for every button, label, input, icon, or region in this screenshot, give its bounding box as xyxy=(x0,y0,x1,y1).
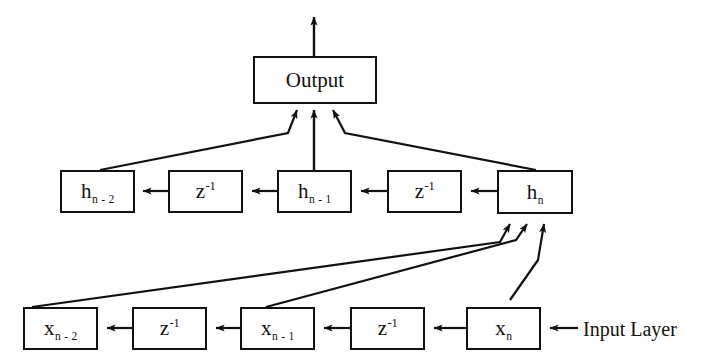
node-x-n-label: xn xyxy=(495,318,512,339)
node-x-n-1[interactable]: xn - 1 xyxy=(240,307,315,350)
node-input-delay-1-label: z-1 xyxy=(160,318,180,339)
edge-x-n-to-h-n xyxy=(510,224,544,300)
node-h-n-label: hn xyxy=(527,182,544,203)
edge-x-n-1-to-h-n xyxy=(266,224,527,307)
edge-x-n-2-to-h-n xyxy=(32,224,510,307)
input-layer-label: Input Layer xyxy=(583,318,677,341)
node-hidden-delay-2-label: z-1 xyxy=(415,181,435,202)
node-h-n-1[interactable]: hn - 1 xyxy=(277,170,352,213)
node-hidden-delay-1[interactable]: z-1 xyxy=(168,170,243,213)
node-x-n[interactable]: xn xyxy=(466,307,541,350)
node-hidden-delay-1-label: z-1 xyxy=(196,181,216,202)
node-x-n-1-label: xn - 1 xyxy=(261,318,294,339)
node-h-n-2-label: hn - 2 xyxy=(81,181,114,202)
node-output-label: Output xyxy=(286,70,344,91)
node-input-delay-2[interactable]: z-1 xyxy=(350,307,425,350)
node-h-n[interactable]: hn xyxy=(497,170,573,214)
node-h-n-2[interactable]: hn - 2 xyxy=(60,170,135,213)
node-h-n-1-label: hn - 1 xyxy=(298,181,331,202)
node-input-delay-2-label: z-1 xyxy=(378,318,398,339)
node-x-n-2-label: xn - 2 xyxy=(44,318,77,339)
diagram-canvas: Output hn - 2 z-1 hn - 1 z-1 hn xn - 2 z… xyxy=(0,0,711,358)
edge-h-n-2-to-output xyxy=(100,110,297,170)
node-hidden-delay-2[interactable]: z-1 xyxy=(387,170,462,213)
node-output[interactable]: Output xyxy=(253,56,377,104)
node-input-delay-1[interactable]: z-1 xyxy=(132,307,207,350)
edge-h-n-to-output xyxy=(333,110,536,170)
node-x-n-2[interactable]: xn - 2 xyxy=(23,307,98,350)
